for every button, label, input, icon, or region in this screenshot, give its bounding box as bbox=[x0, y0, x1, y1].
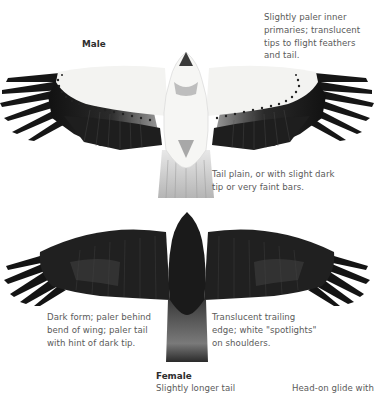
female-left-note-line: Dark form; paler behind bbox=[47, 311, 151, 324]
female-left-note-line: bend of wing; paler tail bbox=[47, 324, 151, 337]
male-wing-note-line: primaries; translucent bbox=[264, 24, 360, 37]
male-tail-note-line: Tail plain, or with slight dark bbox=[212, 168, 335, 181]
female-right-note: Translucent trailing edge; white "spotli… bbox=[212, 311, 317, 349]
male-wing-note: Slightly paler inner primaries; transluc… bbox=[264, 11, 360, 62]
male-title: Male bbox=[82, 39, 106, 49]
female-left-note: Dark form; paler behind bend of wing; pa… bbox=[47, 311, 151, 349]
female-left-note-line: with hint of dark tip. bbox=[47, 337, 151, 350]
male-tail-note-line: tip or very faint bars. bbox=[212, 181, 335, 194]
female-caption: Slightly longer tail bbox=[156, 382, 235, 395]
female-title: Female bbox=[156, 371, 192, 381]
male-wing-note-line: and tail. bbox=[264, 49, 360, 62]
female-right-note-line: on shoulders. bbox=[212, 337, 317, 350]
female-right-note-line: edge; white "spotlights" bbox=[212, 324, 317, 337]
head-on-caption: Head-on glide with bbox=[292, 382, 374, 395]
male-tail-note: Tail plain, or with slight dark tip or v… bbox=[212, 168, 335, 194]
male-wing-note-line: Slightly paler inner bbox=[264, 11, 360, 24]
female-right-note-line: Translucent trailing bbox=[212, 311, 317, 324]
male-wing-note-line: tips to flight feathers bbox=[264, 37, 360, 50]
